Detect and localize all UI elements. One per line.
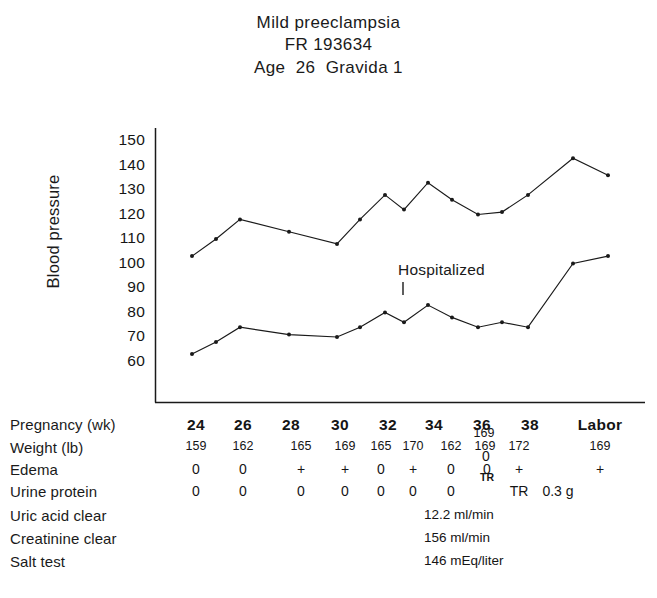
urine-cell-4: 0 — [377, 483, 385, 499]
urine-protein-cell-extra: TR — [480, 471, 494, 483]
week-cell-4: 32 — [379, 416, 397, 434]
edema-cell-4: 0 — [377, 461, 385, 477]
y-axis-title: Blood pressure — [44, 137, 63, 327]
urine-cell-5: 0 — [409, 483, 417, 499]
table-row-weight: Weight (lb) 169 159162165169165170162169… — [0, 439, 657, 460]
week-cell-8: Labor — [578, 416, 623, 434]
systolic-line — [190, 156, 610, 258]
edema-cell-0: 0 — [192, 461, 200, 477]
table-row-creatinine: Creatinine clear 156 ml/min — [0, 530, 657, 551]
row-label-pregnancy: Pregnancy (wk) — [10, 416, 116, 433]
weight-cell-1: 162 — [233, 439, 254, 453]
week-cell-5: 34 — [425, 416, 443, 434]
row-label-uric-acid: Uric acid clear — [10, 507, 107, 524]
row-label-urine-protein: Urine protein — [10, 483, 97, 500]
edema-cell-6: 0 — [447, 461, 455, 477]
y-tick-60: 60 — [101, 352, 145, 370]
table-row-pregnancy: Pregnancy (wk) 2426283032343638Labor — [0, 416, 657, 437]
y-tick-110: 110 — [101, 229, 145, 247]
y-tick-140: 140 — [101, 156, 145, 174]
row-label-edema: Edema — [10, 461, 58, 478]
weight-cell-5: 170 — [403, 439, 424, 453]
weight-cell-4: 165 — [371, 439, 392, 453]
title-line-diagnosis: Mild preeclampsia — [0, 12, 657, 34]
y-tick-70: 70 — [101, 327, 145, 345]
weight-cell-9: 169 — [590, 439, 611, 453]
urine-cell-2: 0 — [297, 483, 305, 499]
week-cell-2: 28 — [282, 416, 300, 434]
weight-cell-6: 162 — [441, 439, 462, 453]
hospitalized-annotation: Hospitalized — [398, 261, 485, 279]
y-tick-120: 120 — [101, 205, 145, 223]
urine-cell-6: 0 — [447, 483, 455, 499]
weight-cell-0: 159 — [186, 439, 207, 453]
y-tick-150: 150 — [101, 131, 145, 149]
week-cell-7: 38 — [521, 416, 539, 434]
urine-cell-3: 0 — [341, 483, 349, 499]
edema-cell-3: + — [341, 461, 349, 477]
edema-cell-1: 0 — [239, 461, 247, 477]
week-cell-1: 26 — [234, 416, 252, 434]
table-row-edema: Edema 0 00++0+00++ — [0, 461, 657, 482]
edema-cell-2: + — [297, 461, 305, 477]
y-tick-90: 90 — [101, 278, 145, 296]
weight-cell-extra: 169 — [474, 426, 495, 440]
salt-test-value: 146 mEq/liter — [424, 553, 504, 568]
table-row-urine-protein: Urine protein TR 0000000TR0.3 g — [0, 483, 657, 504]
edema-cell-5: + — [409, 461, 417, 477]
row-label-weight: Weight (lb) — [10, 439, 83, 456]
title-line-patient-info: Age 26 Gravida 1 — [0, 57, 657, 79]
urine-cell-8: 0.3 g — [542, 483, 573, 499]
row-label-salt-test: Salt test — [10, 553, 65, 570]
creatinine-value: 156 ml/min — [424, 530, 490, 545]
weight-cell-8: 172 — [509, 439, 530, 453]
y-tick-130: 130 — [101, 180, 145, 198]
urine-cell-7: TR — [510, 483, 529, 499]
y-tick-100: 100 — [101, 254, 145, 272]
edema-cell-9: + — [596, 461, 604, 477]
table-row-uric-acid: Uric acid clear 12.2 ml/min — [0, 507, 657, 528]
week-cell-3: 30 — [331, 416, 349, 434]
edema-cell-8: + — [515, 461, 523, 477]
urine-cell-1: 0 — [239, 483, 247, 499]
weight-cell-2: 165 — [291, 439, 312, 453]
title-line-record-number: FR 193634 — [0, 34, 657, 56]
uric-acid-value: 12.2 ml/min — [424, 507, 494, 522]
weight-cell-3: 169 — [335, 439, 356, 453]
y-tick-80: 80 — [101, 303, 145, 321]
table-row-salt-test: Salt test 146 mEq/liter — [0, 553, 657, 574]
week-cell-0: 24 — [187, 416, 205, 434]
row-label-creatinine: Creatinine clear — [10, 530, 117, 547]
title-block: Mild preeclampsia FR 193634 Age 26 Gravi… — [0, 12, 657, 79]
urine-cell-0: 0 — [192, 483, 200, 499]
